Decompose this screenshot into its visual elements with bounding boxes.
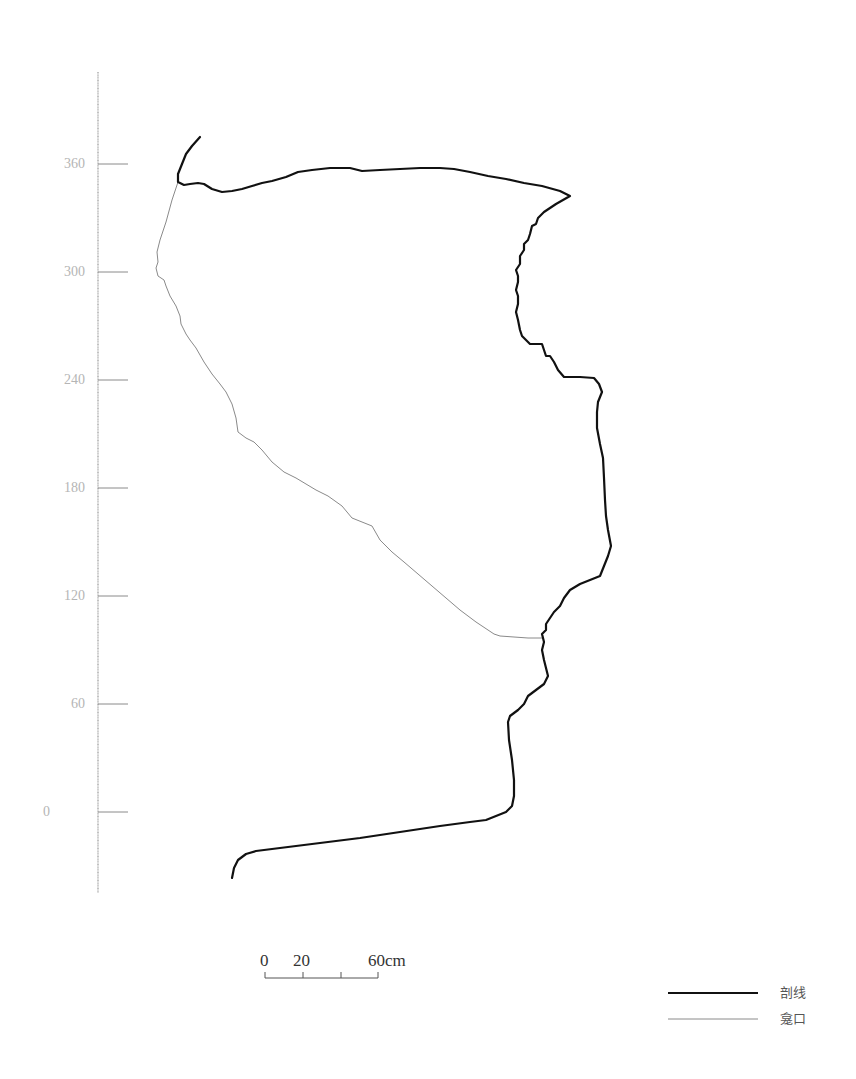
scale-bar [265, 972, 378, 978]
scale-label-20: 20 [293, 952, 310, 970]
profile-drawing [0, 0, 856, 1079]
axis-ticks [98, 164, 128, 812]
tick-label-120: 120 [35, 588, 85, 604]
scale-label-0: 0 [260, 952, 269, 970]
tick-label-360: 360 [35, 156, 85, 172]
legend-label-profile: 剖线 [780, 985, 806, 1001]
section-figure: 360 300 240 180 120 60 0 0 20 60cm 剖线 龛口 [0, 0, 856, 1079]
tick-label-180: 180 [35, 480, 85, 496]
tick-label-60: 60 [35, 696, 85, 712]
scale-label-60cm: 60cm [368, 952, 406, 970]
legend-label-niche: 龛口 [780, 1011, 806, 1027]
profile-line [178, 137, 611, 878]
niche-line [156, 182, 542, 638]
tick-label-300: 300 [35, 264, 85, 280]
tick-label-240: 240 [35, 372, 85, 388]
tick-label-0: 0 [0, 804, 50, 820]
